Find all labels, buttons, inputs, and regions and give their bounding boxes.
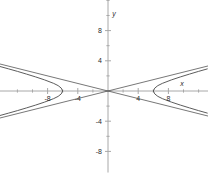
asymptote-line <box>0 64 208 116</box>
x-tick-label: -8 <box>44 95 50 102</box>
x-tick-label: 8 <box>166 95 170 102</box>
y-tick-label: 8 <box>98 27 102 34</box>
x-axis-tick-labels: -8-448 <box>44 95 170 102</box>
hyperbola-graph-figure: -8-448 84-4-8 x y <box>0 0 208 188</box>
x-axis-label: x <box>179 80 184 87</box>
y-tick-label: -8 <box>96 148 102 155</box>
x-tick-label: -4 <box>75 95 81 102</box>
axes-group <box>0 0 208 173</box>
hyperbola-branch <box>153 91 207 113</box>
y-tick-label: 4 <box>98 57 102 64</box>
x-tick-label: 4 <box>136 95 140 102</box>
plot-canvas: -8-448 84-4-8 x y <box>0 0 208 188</box>
y-tick-label: -4 <box>96 118 102 125</box>
y-axis-label: y <box>111 10 116 18</box>
asymptote-line <box>0 66 208 118</box>
hyperbola-branch <box>0 66 63 91</box>
hyperbola-branch <box>0 91 63 116</box>
